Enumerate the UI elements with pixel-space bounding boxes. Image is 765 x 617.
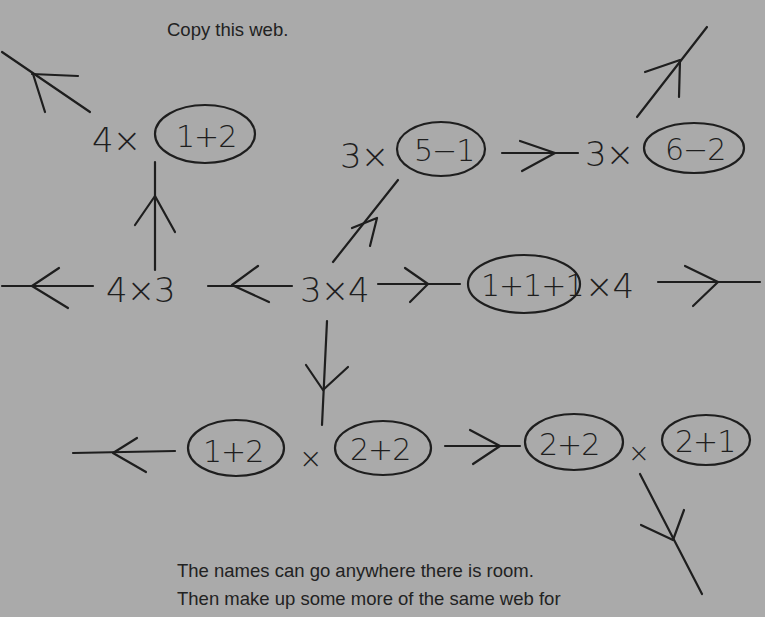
oval-top-left-text: 1+2 [176,119,236,154]
node-top-left: 4× 1+2 [92,105,255,163]
node-upper-middle-prefix: 3× [340,136,388,176]
node-top-left-prefix: 4× [92,120,140,160]
oval-bottom-left-b-text: 2+2 [350,432,410,467]
oval-bottom-right-b-text: 2+1 [675,424,735,459]
node-center: 3×4 [300,270,369,310]
node-left: 4×3 [106,270,175,310]
arrow-center-to-left [208,266,292,302]
instruction-make-more: Then make up some more of the same web f… [177,585,561,613]
arrow-bottom-left-offscreen [73,438,175,472]
node-upper-middle: 3× 5−1 [340,122,485,176]
arrow-left-offscreen [2,268,93,308]
node-right: 1+1+1 ×4 [468,255,633,313]
oval-bottom-left-a-text: 1+2 [203,434,263,469]
node-center-text: 3×4 [300,270,369,310]
multiplication-web-diagram: 4× 1+2 3× 5−1 3× 6−2 [0,0,765,617]
arrow-bottom-left-to-bottom-right [445,430,520,464]
arrow-right-offscreen [658,266,760,306]
arrow-center-to-upper-middle [333,180,398,262]
node-right-suffix: ×4 [585,266,633,306]
arrow-upper-right-offscreen [637,27,707,117]
arrow-top-left-offscreen [2,52,90,112]
arrow-center-to-bottom-left [306,321,348,425]
arrow-center-to-right [378,268,460,302]
node-bottom-left: 1+2 × 2+2 [188,420,431,476]
arrow-left-to-top-left [135,162,175,270]
node-upper-right-prefix: 3× [585,134,633,174]
oval-right-text: 1+1+1 [481,268,584,303]
node-bottom-right: 2+2 × 2+1 [525,414,750,470]
oval-upper-middle-text: 5−1 [414,133,474,168]
node-bottom-left-op: × [299,442,321,475]
arrow-bottom-right-offscreen [640,474,702,594]
oval-upper-right-text: 6−2 [665,132,725,167]
node-left-text: 4×3 [106,270,175,310]
node-upper-right: 3× 6−2 [585,123,744,174]
node-bottom-right-op: × [628,438,649,468]
arrow-upper-middle-to-upper-right [502,141,578,171]
worksheet-page: Copy this web. 4× 1+2 3× 5−1 [0,0,765,617]
oval-bottom-right-a-text: 2+2 [539,427,599,462]
instruction-names-room: The names can go anywhere there is room. [177,557,534,585]
